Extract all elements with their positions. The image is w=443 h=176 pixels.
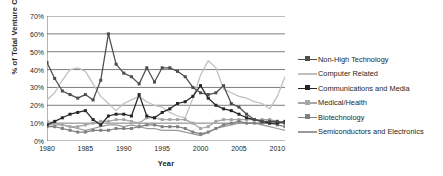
data-point-marker — [61, 116, 64, 119]
data-point-marker — [284, 125, 286, 128]
data-point-marker — [84, 123, 87, 126]
data-point-marker — [207, 125, 210, 128]
data-point-marker — [115, 63, 118, 66]
data-point-marker — [130, 115, 133, 118]
legend-label: Medical/Health — [317, 98, 367, 107]
data-point-marker — [153, 81, 156, 84]
legend-item-non-high-technology: Non-High Technology — [298, 52, 443, 67]
data-point-marker — [145, 115, 148, 118]
legend-swatch-icon — [298, 98, 317, 107]
data-point-marker — [92, 129, 95, 132]
data-point-marker — [245, 113, 248, 116]
legend-label: Biotechnology — [317, 113, 364, 122]
data-point-marker — [145, 66, 148, 69]
data-point-marker — [47, 120, 49, 123]
data-point-marker — [84, 131, 87, 134]
data-point-marker — [245, 116, 248, 119]
y-axis-tick-label: 60% — [30, 30, 44, 37]
data-point-marker — [122, 118, 125, 121]
x-axis-tick-label: 2000 — [193, 145, 209, 152]
data-point-marker — [168, 107, 171, 110]
data-point-marker — [237, 106, 240, 109]
y-axis-tick-label: 20% — [30, 102, 44, 109]
data-point-marker — [199, 132, 202, 135]
data-point-marker — [115, 113, 118, 116]
data-point-marker — [191, 131, 194, 134]
data-point-marker — [253, 118, 256, 121]
data-point-marker — [138, 93, 141, 96]
data-point-marker — [176, 118, 179, 121]
data-point-marker — [245, 122, 248, 125]
data-point-marker — [168, 118, 171, 121]
data-point-marker — [84, 109, 87, 112]
data-point-marker — [138, 125, 141, 128]
y-axis-tick-label: 10% — [30, 120, 44, 127]
series-line — [47, 120, 285, 136]
data-point-marker — [176, 102, 179, 105]
data-point-marker — [61, 90, 64, 93]
y-axis-title: % of Total Venture Capital — [10, 0, 19, 85]
data-point-marker — [76, 125, 79, 128]
data-point-marker — [99, 129, 102, 132]
legend-item-computer-related: Computer Related — [298, 67, 443, 82]
data-point-marker — [107, 129, 110, 132]
x-axis-tick-label: 2005 — [231, 145, 247, 152]
data-point-marker — [184, 118, 187, 121]
x-axis-tick-label: 1990 — [116, 145, 132, 152]
data-point-marker — [138, 82, 141, 85]
data-point-marker — [222, 118, 225, 121]
data-point-marker — [47, 123, 49, 126]
legend-label: Communications and Media — [317, 84, 410, 93]
data-point-marker — [53, 120, 56, 123]
legend-item-medical-health: Medical/Health — [298, 96, 443, 111]
data-point-marker — [107, 115, 110, 118]
legend-label: Semiconductors and Electronics — [317, 127, 424, 136]
data-point-marker — [107, 32, 110, 35]
data-point-marker — [176, 125, 179, 128]
data-point-marker — [230, 118, 233, 121]
legend-swatch-icon — [298, 55, 317, 64]
data-point-marker — [69, 93, 72, 96]
data-point-marker — [191, 95, 194, 98]
legend-item-communications-and-media: Communications and Media — [298, 81, 443, 96]
data-point-marker — [99, 123, 102, 126]
data-point-marker — [237, 120, 240, 123]
data-point-marker — [253, 122, 256, 125]
data-point-marker — [99, 79, 102, 82]
data-point-marker — [76, 111, 79, 114]
legend-swatch-icon — [298, 69, 317, 78]
data-point-marker — [61, 127, 64, 130]
data-point-marker — [84, 93, 87, 96]
data-point-marker — [161, 66, 164, 69]
data-point-marker — [99, 120, 102, 123]
data-point-marker — [47, 61, 49, 64]
data-point-marker — [130, 75, 133, 78]
legend-label: Computer Related — [317, 69, 378, 78]
data-point-marker — [199, 84, 202, 87]
data-point-marker — [92, 98, 95, 101]
data-point-marker — [145, 123, 148, 126]
data-point-marker — [276, 120, 279, 123]
chart-legend: Non-High TechnologyComputer RelatedCommu… — [298, 52, 443, 139]
data-point-marker — [130, 120, 133, 123]
legend-swatch-icon — [298, 84, 317, 93]
x-axis-tick-label: 1995 — [154, 145, 170, 152]
x-axis-tick-label: 1985 — [78, 145, 94, 152]
data-point-marker — [122, 72, 125, 75]
data-point-marker — [214, 104, 217, 107]
data-point-marker — [107, 120, 110, 123]
data-point-marker — [214, 91, 217, 94]
data-point-marker — [153, 116, 156, 119]
data-point-marker — [284, 122, 286, 125]
data-point-marker — [53, 125, 56, 128]
data-point-marker — [207, 97, 210, 100]
y-axis-tick-label: 70% — [30, 13, 44, 20]
data-point-marker — [76, 97, 79, 100]
plot-area: 0%10%20%30%40%50%60%70%19801985199019952… — [47, 16, 285, 141]
data-point-marker — [199, 91, 202, 94]
y-axis-tick-label: 30% — [30, 84, 44, 91]
data-point-marker — [260, 120, 263, 123]
data-point-marker — [161, 118, 164, 121]
chart-figure: % of Total Venture Capital Year 0%10%20%… — [0, 0, 443, 176]
data-point-marker — [214, 120, 217, 123]
